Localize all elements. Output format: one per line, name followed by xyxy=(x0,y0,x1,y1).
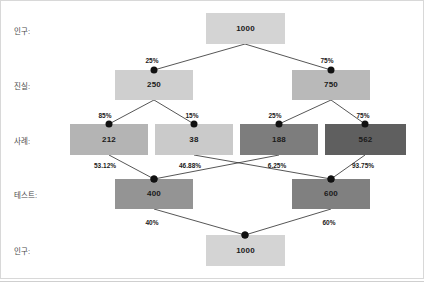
edge-percent-label: 60% xyxy=(322,220,335,227)
node-value-label: 400 xyxy=(147,190,161,198)
node-pop-top: 1000 xyxy=(206,13,285,44)
edge-percent-label: 25% xyxy=(268,113,281,120)
edge-percent-label: 25% xyxy=(145,58,158,65)
row-label-row-truth: 진실: xyxy=(14,83,30,91)
edge-port-dot xyxy=(151,176,158,183)
edge-percent-label: 53.12% xyxy=(94,163,116,170)
node-value-label: 188 xyxy=(272,136,286,144)
edge-port-dot xyxy=(328,176,335,183)
node-value-label: 212 xyxy=(102,136,116,144)
node-case-562: 562 xyxy=(325,124,406,155)
node-case-188: 188 xyxy=(240,124,318,155)
edge-percent-label: 6.25% xyxy=(268,163,286,170)
node-case-212: 212 xyxy=(70,124,148,155)
edge-percent-label: 75% xyxy=(356,113,369,120)
node-test-400: 400 xyxy=(115,179,193,209)
edge-link-pop-truth-pos xyxy=(245,44,331,70)
edge-port-dot xyxy=(276,121,283,128)
edge-link-truth-pos-case-188 xyxy=(279,100,331,124)
edge-port-dot xyxy=(106,121,113,128)
node-value-label: 600 xyxy=(324,190,338,198)
node-truth-neg: 250 xyxy=(115,70,193,100)
edge-port-dot xyxy=(328,67,335,74)
edge-percent-label: 15% xyxy=(185,113,198,120)
row-label-row-test: 테스트: xyxy=(14,192,37,200)
edge-percent-label: 75% xyxy=(320,58,333,65)
edge-percent-label: 46.88% xyxy=(179,163,201,170)
edge-percent-label: 93.75% xyxy=(352,163,374,170)
edge-link-truth-neg-case-212 xyxy=(109,100,154,124)
row-label-row-population-top: 인구: xyxy=(14,28,30,36)
edge-link-test-600-pop xyxy=(245,209,331,235)
node-value-label: 38 xyxy=(189,136,198,144)
edge-percent-label: 40% xyxy=(145,220,158,227)
edge-port-dot xyxy=(151,67,158,74)
node-truth-pos: 750 xyxy=(292,70,370,100)
node-value-label: 250 xyxy=(147,81,161,89)
edge-port-dot xyxy=(242,232,249,239)
edge-link-pop-truth-neg xyxy=(154,44,245,70)
node-value-label: 750 xyxy=(324,81,338,89)
edge-percent-label: 85% xyxy=(98,113,111,120)
node-case-38: 38 xyxy=(155,124,233,155)
node-test-600: 600 xyxy=(292,179,370,209)
edge-port-dot xyxy=(362,121,369,128)
node-value-label: 1000 xyxy=(236,247,255,255)
node-value-label: 1000 xyxy=(236,25,255,33)
row-label-row-case: 사례: xyxy=(14,138,30,146)
edge-port-dot xyxy=(191,121,198,128)
row-label-row-population-bottom: 인구: xyxy=(14,248,30,256)
edge-link-test-400-pop xyxy=(154,209,245,235)
tree-diagram-figure: 1000250750212381885624006001000 25%75%85… xyxy=(0,0,424,286)
node-value-label: 562 xyxy=(359,136,373,144)
node-pop-bottom: 1000 xyxy=(206,235,285,266)
